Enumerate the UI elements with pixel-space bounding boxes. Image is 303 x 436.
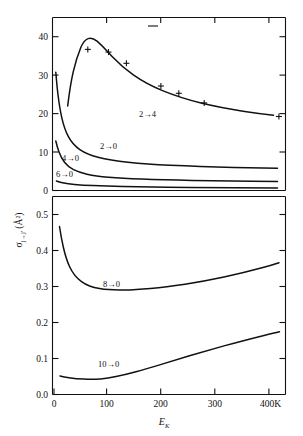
upper-panel-y-ticks [53,37,59,191]
y-label-units: (Å²) [13,213,25,229]
y-ticklabel-30: 30 [39,71,49,81]
y-ticklabel-40: 40 [39,32,49,42]
y-label-subscript: j→j' [19,231,26,243]
y-ticklabel-0-5: 0.5 [36,210,48,220]
lower-panel-frame [53,197,286,395]
plus-marker [85,46,91,52]
curve-2-to-0 [56,72,278,168]
curve-2-to-4 [68,38,274,115]
curve-label-8-to-0: 8→0 [103,279,120,289]
scientific-chart: 0 10 20 30 40 [0,0,303,436]
y-ticklabel-0-4: 0.4 [36,246,48,256]
x-label-subscript: K [164,422,170,429]
plus-marker [276,114,282,120]
x-ticklabel-400: 400K [260,399,281,409]
curve-label-10-to-0: 10→0 [98,359,119,369]
curve-label-6-to-0: 6→0 [56,169,73,179]
curve-6-to-0 [56,181,277,188]
y-ticklabel-0-3: 0.3 [36,282,48,292]
curve-10-to-0 [60,332,280,380]
plus-marker [123,60,129,66]
y-ticklabel-0-1: 0.1 [36,354,48,364]
x-axis-label: EK [158,416,170,429]
y-ticklabel-0: 0 [43,186,48,196]
figure-root: 0 10 20 30 40 [0,0,303,436]
x-ticklabel-200: 200 [154,399,169,409]
lower-panel-x-ticks [54,389,269,395]
lower-panel-y-ticks [53,215,59,395]
svg-text:EK: EK [158,416,170,429]
x-ticklabel-300: 300 [208,399,223,409]
scatter-plus-markers [85,46,282,119]
y-ticklabel-10: 10 [39,148,49,158]
x-label-main: E [158,416,165,427]
y-ticklabel-0-0: 0.0 [36,390,48,400]
upper-panel-y-ticklabels: 0 10 20 30 40 [39,32,49,196]
y-ticklabel-0-2: 0.2 [36,318,48,328]
plus-marker [158,83,164,89]
x-ticklabel-100: 100 [99,399,114,409]
lower-panel-right-ticks [280,215,286,359]
x-ticklabel-0: 0 [52,399,57,409]
curve-4-to-0 [56,141,278,182]
curve-8-to-0 [60,227,280,291]
curve-label-2-to-0: 2→0 [100,141,117,151]
lower-panel-x-ticklabels: 0 100 200 300 400K [52,399,282,409]
upper-panel-right-ticks [280,37,286,152]
y-axis-label: σj→j' (Å²) [13,213,26,248]
upper-panel-top-ticks [107,18,269,24]
lower-panel-y-ticklabels: 0.0 0.1 0.2 0.3 0.4 0.5 [36,210,48,400]
curve-label-4-to-0: 4→0 [62,153,79,163]
svg-text:σj→j' (Å²): σj→j' (Å²) [13,213,26,248]
y-ticklabel-20: 20 [39,109,49,119]
curve-label-2-to-4: 2→4 [139,109,157,119]
